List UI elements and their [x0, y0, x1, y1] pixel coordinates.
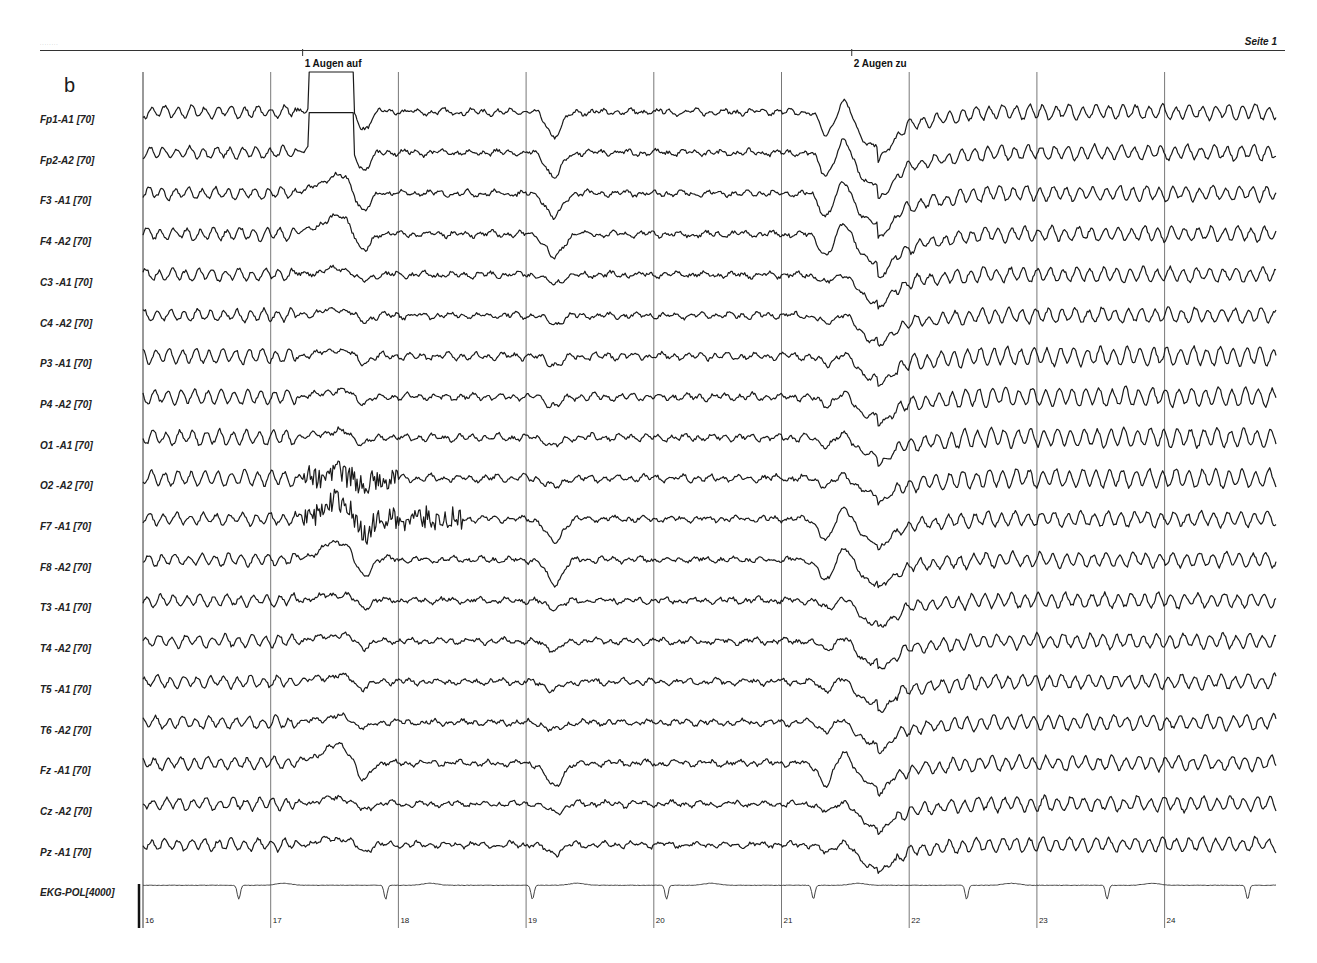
channel-trace — [143, 386, 1276, 426]
eeg-trace-plot — [0, 0, 1317, 963]
channel-trace — [143, 673, 1276, 712]
channel-trace — [143, 592, 1276, 627]
channel-trace — [143, 346, 1276, 387]
channel-trace — [143, 836, 1276, 873]
channel-trace — [143, 883, 1276, 899]
channel-trace — [143, 743, 1276, 797]
channel-trace — [143, 214, 1276, 278]
channel-trace — [143, 265, 1276, 309]
channel-trace — [143, 307, 1276, 346]
channel-trace — [143, 113, 1276, 199]
channel-trace — [143, 713, 1276, 754]
channel-trace — [143, 489, 1276, 550]
channel-trace — [143, 427, 1276, 466]
eeg-page: ········ Seite 1 b 1 Augen auf 2 Augen z… — [0, 0, 1317, 963]
channel-trace — [143, 541, 1276, 588]
channel-trace — [143, 795, 1276, 835]
channel-trace — [143, 461, 1276, 505]
channel-trace — [143, 632, 1276, 669]
